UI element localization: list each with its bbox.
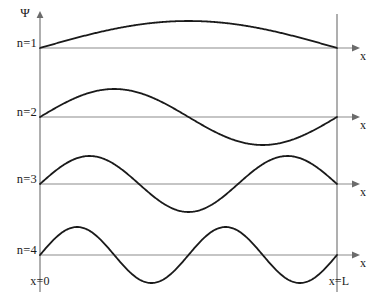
wavefunction-figure: Ψ x x x x n=1 n=2 n=3 n=4 x=0 x=L	[0, 0, 377, 298]
level-label-n3: n=3	[17, 172, 37, 186]
boundary-label-left: x=0	[30, 274, 49, 288]
x-axis-label-n4: x	[360, 256, 366, 270]
x-axis-label-n2: x	[360, 118, 366, 132]
x-axis-label-n3: x	[360, 185, 366, 199]
x-axis-arrow-icon-n1	[352, 45, 360, 52]
x-axis-arrow-icon-n3	[352, 181, 360, 188]
psi-axis-arrow-icon	[37, 11, 44, 18]
level-label-n2: n=2	[17, 105, 37, 119]
wave-curve-n1	[40, 21, 337, 48]
x-axis-arrow-icon-n4	[352, 252, 360, 259]
x-axis-arrow-icon-n2	[352, 114, 360, 121]
boundary-label-right: x=L	[329, 274, 350, 288]
psi-axis-label: Ψ	[20, 5, 30, 20]
figure-canvas: Ψ x x x x n=1 n=2 n=3 n=4 x=0 x=L	[0, 0, 377, 298]
level-label-n1: n=1	[17, 36, 37, 50]
level-label-n4: n=4	[17, 243, 38, 257]
x-axis-label-n1: x	[360, 49, 366, 63]
